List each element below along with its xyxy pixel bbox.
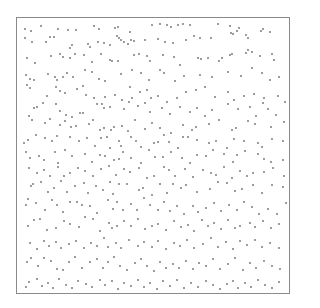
dot <box>29 78 31 80</box>
dot <box>211 76 213 78</box>
dot <box>112 208 114 210</box>
dot <box>229 25 231 27</box>
dot <box>115 242 117 244</box>
dot <box>255 267 257 269</box>
dot <box>62 76 64 78</box>
dot <box>96 103 98 105</box>
dot <box>29 157 31 159</box>
dot <box>235 127 237 129</box>
dot <box>40 181 42 183</box>
dot <box>157 38 159 40</box>
dot <box>44 137 46 139</box>
dot <box>255 115 257 117</box>
dot <box>226 147 228 149</box>
dot <box>196 107 198 109</box>
dot <box>129 31 131 33</box>
dot <box>65 284 67 286</box>
dot <box>246 175 248 177</box>
dot <box>212 149 214 151</box>
dot <box>163 72 165 74</box>
dot <box>254 239 256 241</box>
dot <box>92 175 94 177</box>
dot <box>249 222 251 224</box>
dot <box>63 175 65 177</box>
dot <box>169 113 171 115</box>
dot <box>283 121 285 123</box>
dot <box>43 240 45 242</box>
dot <box>231 129 233 131</box>
dot <box>159 183 161 185</box>
dot <box>157 223 159 225</box>
dot <box>176 279 178 281</box>
dot <box>236 30 238 32</box>
dot <box>117 60 119 62</box>
dot <box>116 225 118 227</box>
dot <box>189 111 191 113</box>
dot <box>184 168 186 170</box>
dot <box>109 44 111 46</box>
dot <box>192 268 194 270</box>
dot <box>197 286 199 288</box>
dot <box>239 170 241 172</box>
dot <box>210 172 212 174</box>
dot <box>50 260 52 262</box>
dot <box>23 142 25 144</box>
dot <box>263 171 265 173</box>
dot <box>60 247 62 249</box>
dot <box>157 240 159 242</box>
dot <box>166 24 168 26</box>
dot <box>33 107 35 109</box>
dot <box>74 185 76 187</box>
dot <box>244 150 246 152</box>
dot <box>234 227 236 229</box>
dot <box>144 102 146 104</box>
dot <box>100 53 102 55</box>
dot <box>205 155 207 157</box>
dot <box>163 166 165 168</box>
dot <box>31 41 33 43</box>
dot <box>28 281 30 283</box>
dot <box>149 60 151 62</box>
dot <box>271 265 273 267</box>
dot <box>214 96 216 98</box>
dot <box>197 211 199 213</box>
dot <box>227 103 229 105</box>
dot <box>71 155 73 157</box>
dot <box>126 183 128 185</box>
dot <box>173 220 175 222</box>
dot <box>247 120 249 122</box>
dot <box>137 218 139 220</box>
dot <box>99 279 101 281</box>
dot <box>104 80 106 82</box>
dot <box>205 207 207 209</box>
dot <box>103 127 105 129</box>
dot <box>185 39 187 41</box>
dot <box>233 138 235 140</box>
dot <box>133 40 135 42</box>
dot <box>148 149 150 151</box>
dot <box>44 209 46 211</box>
dot <box>162 156 164 158</box>
dot <box>129 86 131 88</box>
dot <box>174 175 176 177</box>
dot <box>68 261 70 263</box>
dot <box>94 145 96 147</box>
dot <box>120 73 122 75</box>
dot <box>108 165 110 167</box>
dot <box>232 248 234 250</box>
dot <box>165 267 167 269</box>
dot <box>269 242 271 244</box>
dot <box>189 24 191 26</box>
dot <box>47 282 49 284</box>
dot <box>48 245 50 247</box>
dot <box>252 172 254 174</box>
dot <box>69 47 71 49</box>
dot <box>257 279 259 281</box>
dot <box>257 142 259 144</box>
dot <box>52 287 54 289</box>
dot <box>53 36 55 38</box>
dot <box>232 33 234 35</box>
dot <box>33 79 35 81</box>
dot <box>180 226 182 228</box>
dot <box>164 41 166 43</box>
